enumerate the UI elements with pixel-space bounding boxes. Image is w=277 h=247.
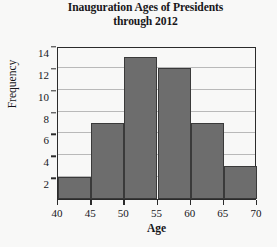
y-axis-title: Frequency — [6, 48, 18, 120]
y-tick-mark-10 — [51, 90, 56, 91]
x-tick-mark-40 — [57, 200, 58, 205]
y-tick-mark-8 — [51, 112, 56, 113]
x-tick-mark-55 — [157, 200, 158, 205]
chart-title: Inauguration Ages of Presidents through … — [28, 1, 263, 29]
bar-45-50 — [91, 123, 124, 200]
x-tick-label-70: 70 — [244, 207, 268, 219]
x-tick-label-45: 45 — [78, 207, 102, 219]
x-tick-mark-45 — [90, 200, 91, 205]
histogram-figure: Inauguration Ages of Presidents through … — [0, 0, 277, 247]
x-axis-tick-marks — [57, 200, 256, 206]
x-tick-mark-70 — [256, 200, 257, 205]
y-axis-tick-labels: 2468101214 — [26, 47, 49, 200]
x-axis-title: Age — [57, 222, 256, 234]
y-tick-mark-12 — [51, 68, 56, 69]
y-tick-mark-4 — [51, 156, 56, 157]
y-tick-mark-6 — [51, 134, 56, 135]
chart-title-line-1: Inauguration Ages of Presidents — [28, 1, 263, 15]
bar-50-55 — [124, 57, 157, 199]
plot-area — [57, 47, 256, 200]
chart-title-line-2: through 2012 — [28, 15, 263, 29]
x-tick-mark-50 — [123, 200, 124, 205]
bar-65-70 — [224, 166, 257, 199]
bar-60-65 — [191, 123, 224, 200]
x-tick-label-40: 40 — [45, 207, 69, 219]
x-tick-label-60: 60 — [178, 207, 202, 219]
x-tick-label-55: 55 — [145, 207, 169, 219]
y-tick-mark-2 — [51, 177, 56, 178]
x-tick-mark-60 — [190, 200, 191, 205]
y-tick-mark-14 — [51, 46, 56, 47]
x-tick-label-50: 50 — [111, 207, 135, 219]
x-tick-mark-65 — [223, 200, 224, 205]
x-tick-label-65: 65 — [211, 207, 235, 219]
bar-40-45 — [58, 177, 91, 199]
x-axis-tick-labels: 40455055606570 — [57, 207, 256, 222]
bar-55-60 — [158, 68, 191, 199]
